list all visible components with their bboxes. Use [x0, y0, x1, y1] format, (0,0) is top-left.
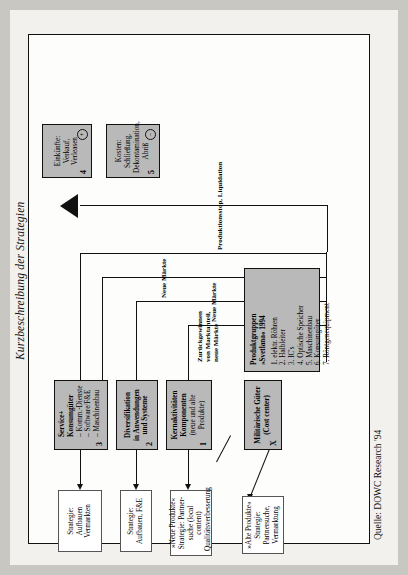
strategy-old-line4: Vermarktung	[272, 501, 281, 549]
product-groups-title-line2: »Svetlana« 1994	[259, 275, 268, 365]
connector-trunk-d	[80, 253, 327, 254]
box-strategy-new-products[interactable]: »Neue Produkte« Strategie: Partner- such…	[170, 490, 212, 556]
arrowhead-liquidation	[60, 194, 78, 218]
diagram-canvas: Kurzbeschreibung der Strategien Quelle: …	[20, 18, 388, 558]
arrow-core-to-newprod	[185, 484, 191, 490]
connector-service-to-strategy	[80, 450, 81, 484]
label-regain-market-share: Zurückgewinnen von Marktanteil, neue Mär…	[196, 322, 220, 362]
minus-sign: –	[145, 129, 156, 140]
label-production-stop-liquidation: Produktionsstop, Liquidation	[216, 161, 224, 249]
core-subtitle-line2: Produkte)	[198, 385, 207, 445]
product-groups-title-line1: Produktgruppen	[250, 275, 259, 365]
strategy-new-line4: Qualitätsverbesserung	[204, 495, 213, 551]
core-subtitle-line1: (neue und alte	[189, 385, 198, 445]
scanned-page: Kurzbeschreibung der Strategien Quelle: …	[10, 10, 398, 565]
connector-to-liquidation	[80, 205, 328, 206]
income-line2: Verkauf,	[63, 129, 72, 173]
service-title-line2: Konsumgüter	[67, 385, 76, 437]
plus-sign: +	[77, 129, 88, 140]
regain-line1: Zurückgewinnen	[196, 322, 204, 362]
diversification-line2: in Anwendungen	[133, 385, 142, 445]
core-title-line1: Kernaktivitäten	[171, 385, 180, 445]
product-group-item-1: 2. Halbleiter	[279, 275, 288, 365]
connector-liquidation-rail	[327, 205, 328, 252]
box-service-consumer[interactable]: 3 Service+ Konsumgüter – Komm.-Dienste –…	[54, 380, 108, 450]
product-group-item-4: 5. Maschinenbau	[306, 275, 315, 365]
figure-caption: Kurzbeschreibung der Strategien	[14, 201, 26, 359]
strategy-new-line1: »Neue Produkte«	[169, 495, 178, 551]
cost-line2: Schließung,	[124, 129, 133, 173]
product-group-item-0: 1. elektr. Röhren	[271, 275, 280, 365]
income-sign-icon: +	[77, 129, 88, 140]
box-service-marker: 3	[95, 442, 105, 446]
service-item-1: – Software/F&E	[84, 385, 93, 437]
cost-sign-icon: –	[145, 129, 156, 140]
product-group-item-3: 4. Optische Speicher	[297, 275, 306, 365]
strategy-old-line3: Partnersuche,	[263, 501, 272, 549]
box-cost-marker: 5	[147, 170, 157, 174]
diversification-line3: und Systeme	[141, 385, 150, 445]
box-military-marker: X	[269, 440, 279, 446]
strategy-build-rd-line2: Aufbauen, F&E	[136, 495, 145, 547]
military-title: Militärische Güter	[254, 385, 263, 445]
label-new-markets-1: Neue Märkte	[210, 282, 218, 321]
box-core-activities[interactable]: 1 Kernaktivitäten Komponenten (neue und …	[166, 380, 212, 450]
connector-core-to-newprod	[188, 450, 189, 484]
income-line1: Einkünfte:	[54, 129, 63, 173]
service-title-line1: Service+	[58, 385, 67, 437]
strategy-new-line3: suche (local content)	[187, 495, 205, 551]
page-background: Kurzbeschreibung der Strategien Quelle: …	[0, 0, 408, 575]
box-cost[interactable]: 5 – Kosten: Schließung, Dekontamination,…	[106, 124, 160, 178]
box-income[interactable]: 4 + Einkünfte: Verkauf, Verleasen	[42, 124, 92, 178]
cost-line1: Kosten:	[115, 129, 124, 173]
box-income-marker: 4	[79, 170, 89, 174]
box-strategy-old-products[interactable]: »Alte Produkte« Strategie: Partnersuche,…	[242, 496, 284, 554]
military-subtitle: (Cost center)	[263, 385, 272, 445]
service-item-0: – Komm.-Dienste	[76, 385, 85, 437]
source-note: Quelle: DOWC Research '94	[373, 429, 383, 539]
product-group-item-5: 6. Konsumgüter	[314, 275, 323, 365]
diversification-line1: Diversifikation	[124, 385, 133, 445]
cost-line3: Dekontamination,	[133, 129, 142, 173]
strategy-old-line2: Strategie:	[254, 501, 263, 549]
product-group-item-2: 3. IC's	[288, 275, 297, 365]
box-military-goods[interactable]: X Militärische Güter (Cost center)	[244, 380, 282, 450]
strategy-build-market-line1: Strategie:	[67, 495, 76, 547]
service-item-2: – Maschinenbau	[93, 385, 102, 437]
strategy-build-market-line3: Vermarkten	[84, 495, 93, 547]
strategy-old-line1: »Alte Produkte«	[245, 501, 254, 549]
box-diversification-marker: 2	[145, 442, 155, 446]
box-strategy-build-market[interactable]: Strategie: Aufbauen Vermarkten	[58, 490, 102, 552]
core-title-line2: Komponenten	[180, 385, 189, 445]
product-group-item-6: 7. Röntgenequipment	[323, 275, 332, 365]
strategy-build-rd-line1: Strategie:	[127, 495, 136, 547]
strategy-new-line2: Strategie: Partner-	[178, 495, 187, 551]
arrow-div-to-strategy	[133, 484, 139, 490]
box-diversification[interactable]: 2 Diversifikation in Anwendungen und Sys…	[116, 380, 158, 450]
regain-line2: von Marktanteil,	[204, 322, 212, 362]
connector-div-to-strategy	[136, 450, 137, 484]
box-product-groups[interactable]: Produktgruppen »Svetlana« 1994 1. elektr…	[244, 268, 320, 372]
strategy-build-market-line2: Aufbauen	[76, 495, 85, 547]
label-new-markets-2: Neue Märkte	[160, 258, 168, 297]
regain-line3: neue Märkte	[212, 322, 220, 362]
connector-to-service-triangle-2	[80, 254, 81, 398]
box-strategy-build-rd[interactable]: Strategie: Aufbauen, F&E	[120, 490, 152, 552]
box-core-marker: 1	[199, 442, 209, 446]
arrow-service-to-strategy	[77, 484, 83, 490]
